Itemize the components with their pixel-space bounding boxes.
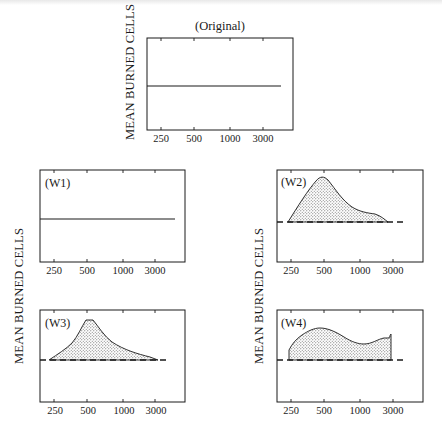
x-tick-label: 3000 bbox=[383, 265, 404, 276]
panel-w4-tag: (W4) bbox=[281, 316, 306, 331]
panel-w3-tag: (W3) bbox=[45, 316, 70, 331]
panel-w2-tag: (W2) bbox=[281, 175, 306, 190]
x-tick-label: 1000 bbox=[220, 133, 241, 144]
x-tick-label: 250 bbox=[47, 405, 63, 416]
plot-frame bbox=[147, 38, 293, 130]
x-tick-label: 500 bbox=[316, 265, 332, 276]
x-tick-label: 1000 bbox=[113, 265, 134, 276]
y-axis-label-left: MEAN BURNED CELLS bbox=[12, 228, 27, 364]
x-tick-label: 3000 bbox=[146, 405, 167, 416]
x-tick-label: 500 bbox=[80, 405, 96, 416]
x-tick-label: 500 bbox=[186, 133, 202, 144]
deviation-area bbox=[289, 328, 391, 360]
panel-w1-tag: (W1) bbox=[45, 176, 70, 191]
x-tick-label: 500 bbox=[316, 405, 332, 416]
panel-original bbox=[147, 38, 293, 130]
x-tick-label: 1000 bbox=[350, 265, 371, 276]
x-tick-label: 250 bbox=[283, 405, 299, 416]
x-tick-label: 3000 bbox=[145, 265, 166, 276]
x-tick-label: 500 bbox=[79, 265, 95, 276]
y-axis-label-right: MEAN BURNED CELLS bbox=[252, 228, 267, 364]
figure-canvas bbox=[0, 0, 442, 438]
panel-original-title: (Original) bbox=[195, 19, 245, 34]
x-tick-label: 250 bbox=[283, 265, 299, 276]
x-tick-label: 1000 bbox=[350, 405, 371, 416]
x-tick-label: 3000 bbox=[253, 133, 274, 144]
y-axis-label-top: MEAN BURNED CELLS bbox=[123, 4, 138, 140]
x-tick-label: 1000 bbox=[114, 405, 135, 416]
x-tick-label: 250 bbox=[46, 265, 62, 276]
x-tick-label: 250 bbox=[153, 133, 169, 144]
x-ticks bbox=[161, 38, 263, 130]
x-tick-label: 3000 bbox=[383, 405, 404, 416]
